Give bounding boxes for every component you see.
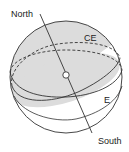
sphere-figure xyxy=(0,0,129,152)
north-label: North xyxy=(11,9,33,19)
ecliptic-label: E xyxy=(104,95,110,105)
celestial-equator-label: CE xyxy=(84,33,97,43)
south-label: South xyxy=(98,136,122,146)
celestial-sphere-diagram: North CE E South xyxy=(0,0,129,152)
earth-center-marker xyxy=(63,72,69,78)
